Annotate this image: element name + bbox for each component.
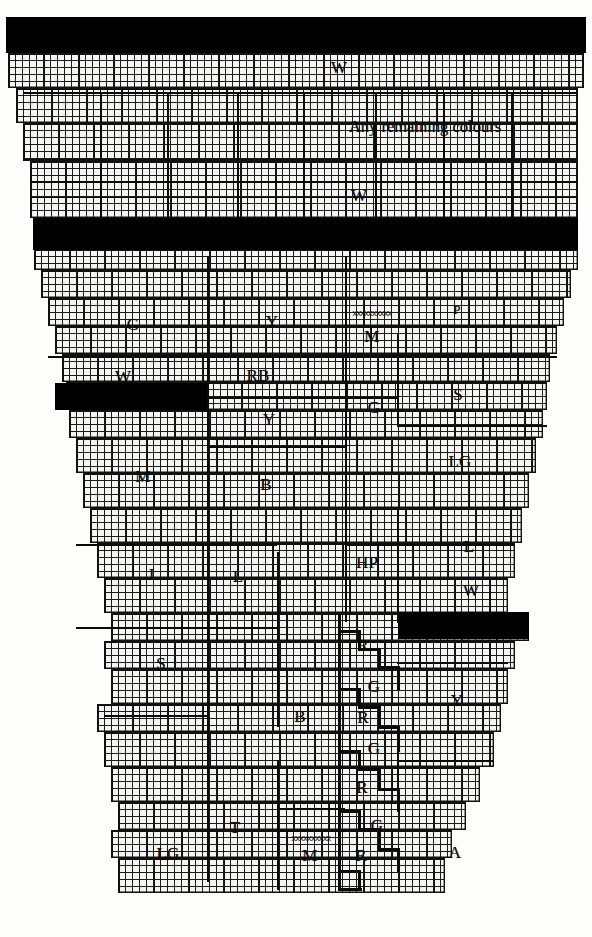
divider-v-m2 bbox=[345, 256, 347, 622]
divider-v-t7 bbox=[511, 92, 513, 218]
divider-h-m3 bbox=[397, 425, 547, 427]
divider-v-m7 bbox=[277, 760, 279, 890]
colour-code-g-5: G bbox=[371, 817, 383, 834]
divider-h-m11 bbox=[277, 808, 345, 810]
hatch-marker-upper: xxxxxxxxxx bbox=[352, 308, 391, 318]
colour-code-m-1: M bbox=[364, 328, 379, 345]
colour-code-w-right: W bbox=[463, 582, 479, 599]
colour-code-w-left: W bbox=[115, 368, 131, 385]
colour-code-g-1: G bbox=[127, 316, 139, 333]
colour-code-r-1: R bbox=[357, 637, 369, 654]
colour-code-r-2: R bbox=[357, 709, 369, 726]
divider-h-m6 bbox=[345, 544, 515, 546]
paper-band-6 bbox=[41, 270, 571, 298]
colour-code-r-4: R bbox=[355, 847, 367, 864]
colour-code-a-1: A bbox=[449, 844, 461, 861]
paper-band-15 bbox=[97, 543, 515, 578]
paper-band-5 bbox=[34, 249, 578, 270]
colour-code-y-1: Y bbox=[266, 313, 278, 330]
divider-h-m5 bbox=[76, 544, 277, 546]
colour-code-j-1: J bbox=[148, 566, 155, 583]
paper-band-22 bbox=[111, 767, 480, 802]
divider-v-m1 bbox=[207, 256, 209, 552]
divider-v-t4 bbox=[303, 92, 305, 218]
colour-code-hp-1: HP bbox=[356, 554, 378, 571]
black-bar-right bbox=[398, 612, 529, 639]
note-any-remaining-colours: Any remaining colours bbox=[349, 117, 501, 137]
colour-code-t-1: T bbox=[230, 819, 241, 836]
colour-code-m-3: M bbox=[302, 847, 317, 864]
paper-band-16 bbox=[104, 578, 508, 613]
divider-h-m10 bbox=[397, 760, 494, 762]
colour-code-g-3: G bbox=[368, 678, 380, 695]
paper-band-7 bbox=[48, 298, 564, 326]
colour-code-g-2: G bbox=[368, 399, 380, 416]
divider-v-m4 bbox=[397, 508, 399, 623]
paper-band-19 bbox=[111, 669, 508, 704]
divider-v-t3 bbox=[237, 92, 239, 218]
divider-h-m4 bbox=[207, 446, 345, 448]
colour-code-g-4: G bbox=[368, 740, 380, 757]
colour-code-m-2: M bbox=[135, 468, 150, 485]
divider-h-t2 bbox=[30, 181, 578, 183]
colour-code-rb-1: RB bbox=[246, 367, 269, 384]
black-bar-left bbox=[55, 383, 207, 410]
colour-code-l-1: L bbox=[464, 538, 475, 555]
black-bar-top bbox=[6, 17, 586, 53]
paper-band-1 bbox=[8, 53, 584, 88]
divider-h-m12 bbox=[277, 830, 345, 832]
colour-code-b-2: B bbox=[294, 708, 306, 725]
colour-code-w-upper: W bbox=[351, 187, 367, 204]
paper-band-11 bbox=[69, 410, 543, 438]
hatch-marker-lower: xxxxxxxxxx bbox=[291, 833, 330, 843]
colour-code-p-1: P bbox=[453, 303, 460, 316]
divider-h-t1 bbox=[23, 92, 578, 94]
divider-v-t1 bbox=[100, 92, 102, 218]
colour-code-l-2: L bbox=[233, 568, 244, 585]
paper-band-23 bbox=[118, 802, 466, 830]
colour-code-lg-1: LG bbox=[448, 453, 471, 470]
colour-code-s-1: S bbox=[453, 386, 463, 403]
colour-code-w-top: W bbox=[331, 59, 347, 76]
paper-band-14 bbox=[90, 508, 522, 543]
colour-code-y-2: Y bbox=[263, 411, 275, 428]
black-bar-upper bbox=[33, 218, 578, 250]
divider-v-m3 bbox=[397, 333, 399, 425]
divider-v-t2 bbox=[167, 92, 169, 218]
divider-h-m9 bbox=[397, 662, 508, 664]
colour-code-y-3: Y bbox=[451, 692, 463, 709]
divider-v-m5 bbox=[277, 552, 279, 727]
colour-code-r-3: R bbox=[356, 779, 368, 796]
divider-h-m7 bbox=[76, 627, 277, 629]
divider-h-m8 bbox=[104, 715, 207, 717]
colour-code-lg-2: LG bbox=[156, 845, 179, 862]
divider-h-m1 bbox=[48, 356, 557, 358]
colour-code-s-2: S bbox=[156, 655, 166, 672]
colour-code-b-1: B bbox=[260, 476, 272, 493]
divider-v-t5 bbox=[375, 92, 377, 218]
divider-v-t6 bbox=[443, 92, 445, 218]
pattern-chart-canvas: Any remaining colours xxxxxxxxxx xxxxxxx… bbox=[0, 0, 592, 937]
divider-v-m6 bbox=[207, 552, 209, 882]
